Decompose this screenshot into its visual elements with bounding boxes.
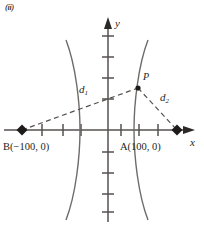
point-a-label: A(100, 0) [120,142,161,153]
point-b-label: B(−100, 0) [3,142,49,153]
segment-d1-label: d1 [79,84,88,97]
coordinate-plane-graphic [0,0,204,226]
x-axis-label: x [190,137,195,148]
figure-part-label: (ii) [5,4,14,12]
point-b-marker [17,125,28,136]
segment-d2-label-subscript: 2 [166,97,170,105]
segment-d2-label: d2 [160,92,169,105]
figure-container: (ii) y x P d1 d2 B(−100, 0) A(100, 0) [0,0,204,226]
horizontal-axis [4,126,195,134]
y-axis-label: y [115,18,120,29]
segment-d1-label-subscript: 1 [85,89,89,97]
vertical-axis [104,17,112,222]
segment-d2 [138,88,177,130]
point-p-label: P [143,72,149,82]
point-p-marker [135,85,140,90]
distance-segments [22,88,177,130]
